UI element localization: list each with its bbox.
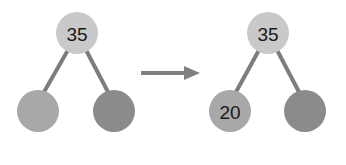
edge-root-right [277, 50, 299, 92]
right-child-node [284, 90, 326, 132]
left-child-label: 20 [219, 102, 240, 123]
edge-root-left [236, 50, 259, 92]
right-child-node [93, 90, 135, 132]
after-tree: 35 20 [209, 12, 326, 132]
edge-root-left [44, 50, 68, 92]
left-child-node [17, 90, 59, 132]
root-node-label: 35 [257, 24, 278, 45]
edge-root-right [86, 50, 108, 92]
tree-diagram: 35 35 20 [0, 0, 346, 165]
root-node-label: 35 [66, 24, 87, 45]
before-tree: 35 [17, 12, 135, 132]
transition-arrow-icon [141, 66, 200, 80]
